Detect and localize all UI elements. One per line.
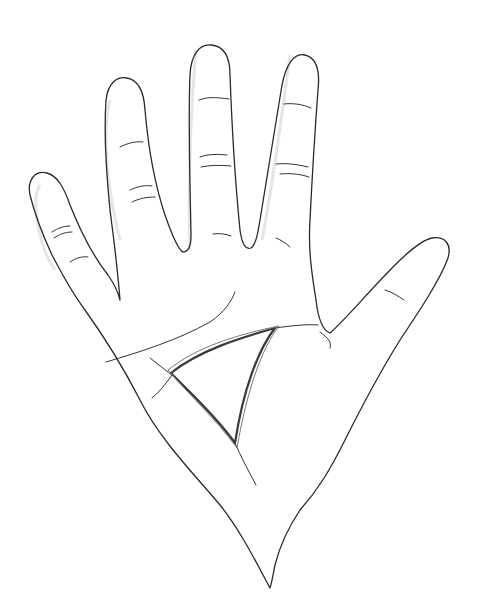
palm-lines [106,292,331,485]
palm-triangle-highlight [168,326,279,448]
palm-drawing [0,0,483,616]
hand-outline [29,45,449,588]
hand-illustration [0,0,483,616]
